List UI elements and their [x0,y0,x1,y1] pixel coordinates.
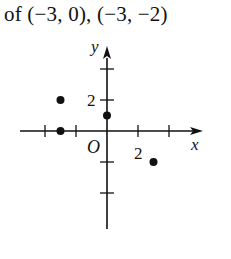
y-tick-label: 2 [87,91,96,110]
data-point [57,127,65,135]
data-point [57,96,65,104]
y-axis-label: y [89,37,99,56]
y-axis-arrow-icon [103,46,111,59]
x-axis-label: x [190,135,199,154]
origin-label: O [87,137,100,157]
data-point [150,158,158,166]
coordinate-plane: 22xyO [0,0,231,259]
x-tick-label: 2 [134,144,143,163]
axes [20,46,203,229]
data-point [103,112,111,120]
